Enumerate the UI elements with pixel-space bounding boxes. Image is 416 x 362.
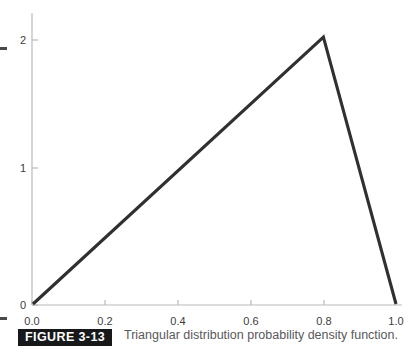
page-edge-mark-bottom xyxy=(0,317,7,320)
triangular-pdf-chart xyxy=(0,0,416,316)
page-edge-mark-top xyxy=(0,47,7,50)
figure-caption-text: Triangular distribution probability dens… xyxy=(124,327,410,343)
figure-caption-row: FIGURE 3-13 Triangular distribution prob… xyxy=(0,326,416,362)
y-tick-label-2: 2 xyxy=(2,35,26,46)
figure-number-badge: FIGURE 3-13 xyxy=(18,329,112,346)
x-axis-ticks xyxy=(32,300,396,305)
triangular-density-curve xyxy=(33,37,396,304)
chart-plot-area: 0 1 2 0.0 0.2 0.4 0.6 0.8 1.0 xyxy=(0,0,416,316)
figure-container: 0 1 2 0.0 0.2 0.4 0.6 0.8 1.0 FIGURE 3-1… xyxy=(0,0,416,362)
y-tick-label-0: 0 xyxy=(2,300,26,311)
y-axis-ticks xyxy=(32,40,38,305)
y-tick-label-1: 1 xyxy=(2,163,26,174)
